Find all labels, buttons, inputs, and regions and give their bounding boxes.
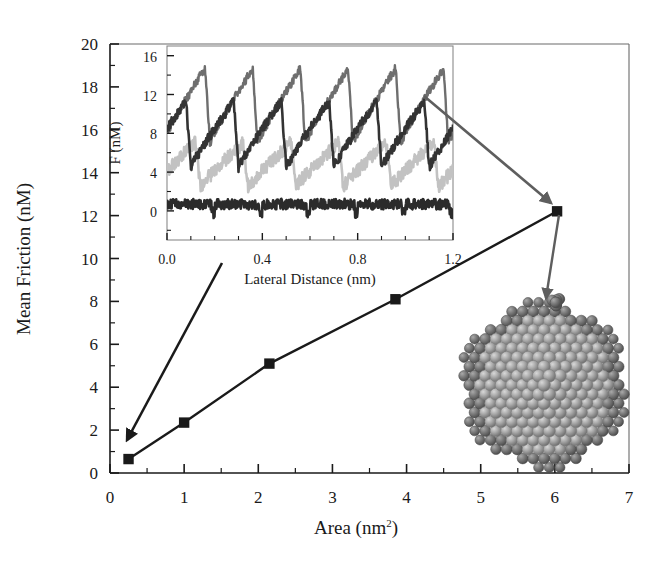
main-y-tick-label: 0 [90, 464, 99, 483]
main-x-tick-label: 5 [476, 488, 485, 507]
x-axis-label-base: Area (nm [314, 517, 386, 539]
main-y-tick-label: 20 [81, 35, 98, 54]
main-data-marker [123, 454, 133, 464]
inset-y-tick-label: 0 [150, 205, 157, 220]
main-data-marker [390, 294, 400, 304]
main-y-tick-label: 2 [90, 421, 99, 440]
main-y-tick-label: 18 [81, 78, 98, 97]
main-x-tick-label: 7 [625, 488, 634, 507]
inset-y-tick-label: 4 [150, 166, 157, 181]
inset-x-tick-label: 0.4 [254, 252, 272, 267]
nanoparticle-atom [459, 353, 469, 363]
main-data-marker [264, 358, 274, 368]
inset-x-tick-label: 0.0 [158, 252, 176, 267]
nanoparticle-atom [464, 343, 474, 353]
main-x-tick-label: 6 [551, 488, 560, 507]
friction-vs-area-figure: 0123456702468101214161820 Area (nm2) Mea… [0, 0, 663, 571]
nanoparticle-atom [555, 463, 565, 473]
inset-y-axis-label: F (nM) [107, 122, 124, 165]
nanoparticle-atom [619, 408, 629, 418]
inset-x-tick-label: 1.2 [444, 252, 462, 267]
nanoparticle-atom [608, 426, 618, 436]
nanoparticle-atom [538, 379, 551, 392]
inset-y-tick-label: 8 [150, 127, 157, 142]
inset-y-tick-label: 12 [143, 89, 157, 104]
main-x-tick-label: 1 [180, 488, 189, 507]
main-y-tick-label: 10 [81, 250, 98, 269]
nanoparticle-atom [614, 343, 624, 353]
nanoparticle-atom [603, 325, 613, 335]
nanoparticle-atom [523, 298, 533, 308]
main-data-marker [179, 417, 189, 427]
nanoparticle-atom [470, 426, 480, 436]
inset-y-tick-label: 16 [143, 50, 157, 65]
nanoparticle-atom [470, 334, 480, 344]
x-axis-label-tail: ) [392, 517, 398, 539]
main-y-tick-label: 12 [81, 207, 98, 226]
main-y-tick-label: 14 [81, 164, 99, 183]
main-y-axis-label: Mean Friction (nM) [13, 183, 35, 335]
main-x-tick-label: 2 [254, 488, 263, 507]
main-y-tick-label: 6 [90, 335, 99, 354]
main-x-tick-label: 3 [328, 488, 337, 507]
main-y-tick-label: 4 [90, 378, 99, 397]
main-x-axis-label: Area (nm2) [314, 517, 398, 539]
nanoparticle-atom [614, 417, 624, 427]
nanoparticle-atom [464, 417, 474, 427]
nanoparticle-atom [608, 334, 618, 344]
main-y-tick-label: 8 [90, 292, 99, 311]
main-y-tick-label: 16 [81, 121, 98, 140]
nanoparticle-tip-atom [550, 297, 561, 308]
main-x-tick-label: 0 [106, 488, 115, 507]
inset-x-tick-label: 0.8 [349, 252, 367, 267]
main-x-tick-label: 4 [402, 488, 411, 507]
inset-x-axis-label: Lateral Distance (nm) [244, 271, 376, 288]
figure-panel: 0123456702468101214161820 Area (nm2) Mea… [0, 0, 663, 571]
main-data-marker [552, 206, 562, 216]
nanoparticle-atom [475, 435, 485, 445]
